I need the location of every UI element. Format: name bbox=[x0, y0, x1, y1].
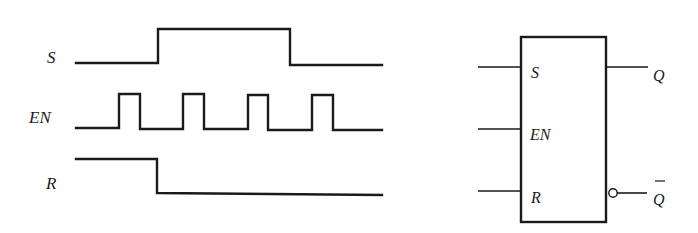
signal-label-en: EN bbox=[28, 108, 52, 127]
signal-label-r: R bbox=[45, 174, 57, 193]
signal-en: EN bbox=[28, 94, 382, 130]
waveform-en bbox=[76, 94, 382, 130]
pin-label-r: R bbox=[530, 189, 541, 206]
output-label-q: Q bbox=[653, 67, 665, 84]
output-label-q-bar: Q bbox=[653, 191, 665, 208]
gated-sr-latch-diagram: S EN R S EN R Q Q bbox=[0, 0, 698, 233]
latch-logic-symbol: S EN R Q Q bbox=[478, 37, 665, 222]
waveform-s bbox=[76, 29, 382, 65]
signal-r: R bbox=[45, 159, 382, 195]
pin-label-en: EN bbox=[529, 126, 552, 143]
signal-s: S bbox=[47, 29, 382, 67]
timing-diagram: S EN R bbox=[28, 29, 382, 195]
waveform-r bbox=[76, 159, 382, 195]
inversion-bubble-icon bbox=[609, 189, 617, 197]
pin-label-s: S bbox=[531, 64, 539, 81]
signal-label-s: S bbox=[47, 48, 56, 67]
